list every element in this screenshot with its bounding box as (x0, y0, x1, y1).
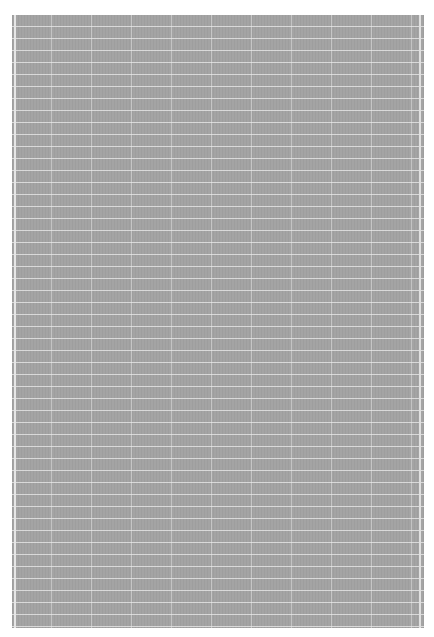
left-border-line (14, 15, 16, 628)
right-border-line (419, 15, 421, 628)
grid-texture (12, 15, 424, 628)
